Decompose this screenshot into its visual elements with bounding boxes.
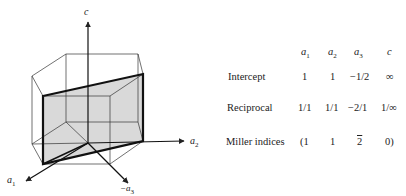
cell: 0) bbox=[385, 136, 394, 147]
col-header-a1: a1 bbox=[301, 46, 310, 60]
cell: (1 bbox=[300, 136, 309, 147]
cell-overlined: 2 bbox=[357, 136, 362, 147]
hexagonal-cell-diagram bbox=[0, 0, 200, 196]
col-header-c: c bbox=[387, 46, 392, 57]
cell: 1 bbox=[302, 71, 307, 82]
row-label-miller-indices: Miller indices bbox=[226, 136, 285, 147]
c-axis-label: c bbox=[84, 6, 88, 17]
row-label-reciprocal: Reciprocal bbox=[227, 102, 272, 113]
cell: 1 bbox=[330, 136, 335, 147]
cell: 1/∞ bbox=[381, 102, 397, 113]
cell: 1/1 bbox=[298, 102, 311, 113]
a2-axis-label: a2 bbox=[190, 135, 199, 149]
col-header-a2: a2 bbox=[328, 46, 337, 60]
cell: 1/1 bbox=[325, 102, 338, 113]
neg-a3-axis-label: −a3 bbox=[120, 183, 134, 196]
cell: ∞ bbox=[386, 71, 394, 82]
cell: 1 bbox=[330, 71, 335, 82]
a1-axis-label: a1 bbox=[7, 174, 16, 188]
col-header-a3: a3 bbox=[354, 46, 363, 60]
miller-plane bbox=[43, 74, 143, 164]
cell: −2/1 bbox=[348, 102, 367, 113]
cell: −1/2 bbox=[350, 71, 369, 82]
row-label-intercept: Intercept bbox=[228, 71, 265, 82]
